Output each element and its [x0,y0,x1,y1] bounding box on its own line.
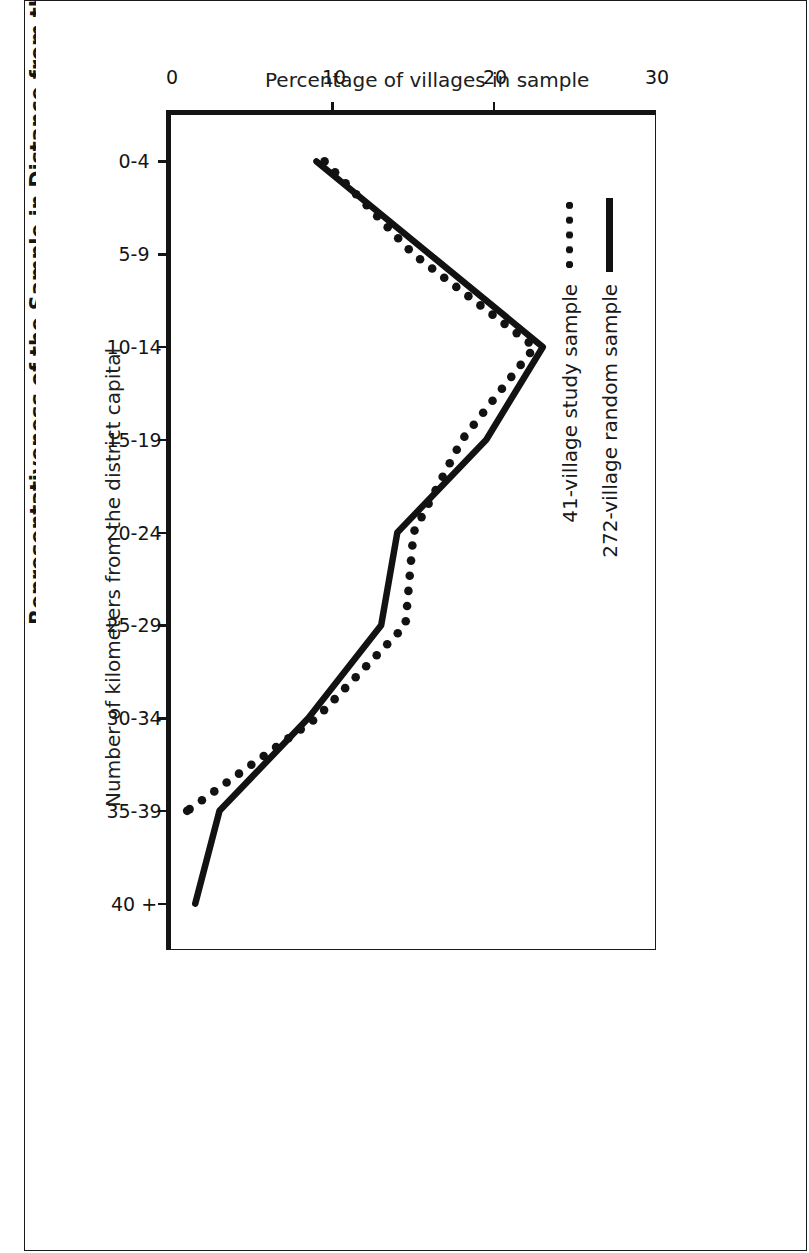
legend-item-label: 41-village study sample [558,284,582,523]
series-line-41-village-study-sample [183,157,534,815]
legend-swatch [606,198,613,272]
y-tick-mark [493,102,496,115]
x-tick-mark [158,160,171,163]
y-tick-label: 30 [635,66,679,88]
series-line-272-village-random-sample [195,161,543,903]
chart-surface: 0-45-910-1415-1920-2425-2930-3435-3940 +… [70,48,670,988]
figure-title-text: Representativeness of the Sample in Dist… [26,0,36,625]
legend-item-label: 272-village random sample [598,284,622,558]
x-tick-mark [158,810,171,813]
dotted-line-swatch-icon [561,198,579,272]
x-tick-label: 40 + [102,893,166,915]
y-tick-mark [331,102,334,115]
x-tick-mark [158,903,171,906]
x-tick-label: 5-9 [102,243,166,265]
x-tick-label: 0-4 [102,150,166,172]
x-tick-mark [158,532,171,535]
x-axis-title: Number of kilometers from the district c… [101,348,125,807]
x-tick-mark [158,717,171,720]
x-tick-mark [158,624,171,627]
x-tick-mark [158,439,171,442]
x-tick-mark [158,253,171,256]
legend-item: 41-village study sample [550,198,590,528]
chart-legend: 272-village random sample41-village stud… [550,198,630,528]
y-tick-label: 0 [150,66,194,88]
chart-canvas: 0-45-910-1415-1920-2425-2930-3435-3940 +… [70,48,670,988]
figure-title: Representativeness of the Sample in Dist… [0,0,36,1253]
legend-item: 272-village random sample [590,198,630,528]
legend-swatch [565,198,574,272]
y-axis-title: Percentage of villages in sample [265,68,565,92]
solid-line-swatch-icon [601,198,619,272]
x-tick-mark [158,346,171,349]
